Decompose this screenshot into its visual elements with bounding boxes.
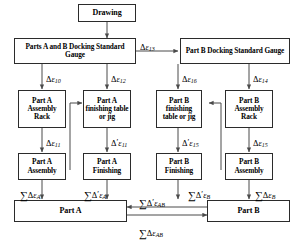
- node-b-finishing-label: Part B Finishing: [158, 158, 200, 174]
- node-drawing[interactable]: Drawing: [78, 4, 136, 22]
- node-b-finishing[interactable]: Part B Finishing: [156, 153, 202, 180]
- edge-label-e10: Δε10: [46, 68, 61, 86]
- node-b-assembly-rack-label: Part B Assembly Rack: [227, 97, 271, 122]
- node-a-assembly-rack-label: Part A Assembly Rack: [20, 97, 64, 122]
- edge-label-e14: Δε14: [253, 68, 268, 86]
- node-b-assembly-label: Part B Assembly: [227, 158, 271, 174]
- edge-label-e15: Δε15: [253, 132, 268, 150]
- node-part-a[interactable]: Part A: [14, 200, 127, 222]
- node-ab-docking-gauge-label: Parts A and B Docking Standard Gauge: [16, 43, 134, 59]
- node-b-docking-gauge-label: Part B Docking Standard Gauge: [186, 47, 284, 55]
- node-b-docking-gauge[interactable]: Part B Docking Standard Gauge: [180, 38, 290, 64]
- sum-label-a: ∑ΔεA: [20, 184, 40, 202]
- node-ab-docking-gauge[interactable]: Parts A and B Docking Standard Gauge: [14, 38, 136, 64]
- edge-label-e11: Δε11: [46, 132, 60, 150]
- node-drawing-label: Drawing: [92, 9, 121, 18]
- edge-label-e12: Δε12: [111, 68, 126, 86]
- node-b-finishing-table-label: Part B finishing table or jig: [158, 97, 200, 122]
- edge-label-e16: Δε16: [182, 68, 197, 86]
- sum-label-b: ∑ΔεB: [255, 184, 275, 202]
- sum-label-b-prime: ∑Δ′εB: [188, 184, 210, 202]
- node-b-assembly[interactable]: Part B Assembly: [225, 153, 273, 180]
- node-part-b[interactable]: Part B: [207, 200, 290, 222]
- sum-label-ab: ∑ΔεAB: [139, 222, 163, 240]
- node-a-finishing-table-label: Part A finishing table or jig: [85, 97, 129, 122]
- edge-a-feedback-to-a-table: [70, 103, 82, 170]
- sum-label-ab-prime: ∑Δ′εAB: [139, 192, 165, 210]
- sum-label-a-prime: ∑Δ′εA: [84, 184, 106, 202]
- edge-label-e11-prime: Δ′ε11: [111, 132, 127, 150]
- node-a-finishing[interactable]: Part A Finishing: [83, 153, 131, 180]
- node-a-assembly-rack[interactable]: Part A Assembly Rack: [18, 90, 66, 128]
- node-a-finishing-table[interactable]: Part A finishing table or jig: [83, 90, 131, 128]
- node-b-finishing-table[interactable]: Part B finishing table or jig: [156, 90, 202, 128]
- edge-label-e15-prime: Δ′ε15: [182, 132, 199, 150]
- node-a-finishing-label: Part A Finishing: [85, 158, 129, 174]
- node-a-assembly-label: Part A Assembly: [20, 158, 64, 174]
- flowchart-canvas: Drawing Parts A and B Docking Standard G…: [0, 0, 294, 240]
- node-b-assembly-rack[interactable]: Part B Assembly Rack: [225, 90, 273, 128]
- node-part-a-label: Part A: [60, 207, 82, 216]
- edge-b-feedback-to-b-table: [209, 103, 221, 170]
- edge-label-e13: Δε13: [140, 36, 155, 54]
- node-part-b-label: Part B: [238, 207, 260, 216]
- node-a-assembly[interactable]: Part A Assembly: [18, 153, 66, 180]
